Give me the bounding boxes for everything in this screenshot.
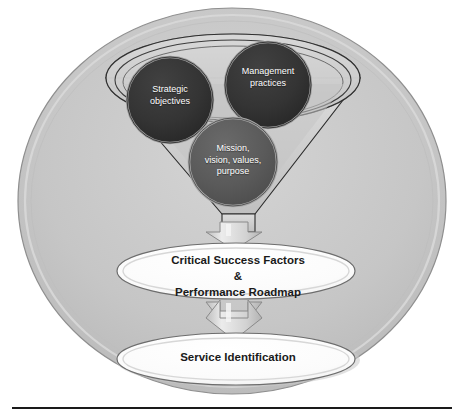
funnel-diagram: [0, 0, 461, 420]
diagram-canvas: Strategic objectives Management practice…: [0, 0, 461, 420]
bubble-mission-vision-values-purpose[interactable]: [189, 118, 277, 206]
bubble-management-practices[interactable]: [225, 42, 311, 128]
oval-service-identification[interactable]: [116, 333, 360, 387]
bubble-strategic-objectives[interactable]: [127, 57, 213, 143]
oval-critical-success-factors[interactable]: [116, 243, 360, 301]
